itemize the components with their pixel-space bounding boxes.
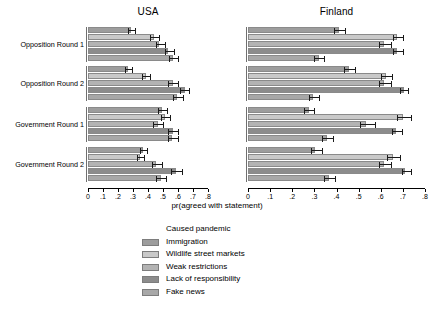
error-bar-cap-low <box>168 129 169 135</box>
bar-finland-g2-s3 <box>248 128 396 134</box>
error-bar <box>153 124 163 125</box>
x-tick-label: .2 <box>282 193 302 200</box>
bar-finland-g2-s1 <box>248 114 403 120</box>
x-axis-label: pr(agreed with statement) <box>0 201 434 210</box>
error-bar-cap-low <box>397 115 398 121</box>
error-bar-cap-low <box>168 81 169 87</box>
error-bar-cap-low <box>128 28 129 34</box>
error-bar <box>142 76 150 77</box>
error-bar-cap-low <box>381 74 382 80</box>
error-bar <box>161 117 170 118</box>
bar-finland-g1-s0 <box>248 66 349 72</box>
x-tick-label: .8 <box>415 193 434 200</box>
error-bar-cap-low <box>379 42 380 48</box>
group-separator <box>246 27 247 62</box>
error-bar <box>379 164 391 165</box>
error-bar <box>360 124 375 125</box>
error-bar-cap-low <box>379 162 380 168</box>
legend-label-0: Immigration <box>166 237 208 246</box>
error-bar <box>128 30 136 31</box>
bar-usa-g1-s4 <box>88 94 177 100</box>
legend-swatch-1 <box>142 251 159 258</box>
error-bar <box>400 90 409 91</box>
error-bar-cap-high <box>403 49 404 55</box>
bar-usa-g1-s1 <box>88 73 146 79</box>
error-bar <box>311 150 322 151</box>
x-tick <box>193 189 194 192</box>
group-separator <box>86 27 87 62</box>
error-bar-cap-low <box>161 115 162 121</box>
error-bar-cap-low <box>334 28 335 34</box>
error-bar <box>125 69 132 70</box>
error-bar <box>168 83 178 84</box>
category-label-0: Opposition Round 1 <box>2 40 84 49</box>
bar-finland-g0-s3 <box>248 48 397 54</box>
error-bar-cap-low <box>156 176 157 182</box>
category-label-3: Government Round 2 <box>2 160 84 169</box>
x-tick-label: .4 <box>327 193 347 200</box>
error-bar-cap-low <box>322 136 323 142</box>
error-bar-cap-high <box>132 67 133 73</box>
error-bar-cap-high <box>335 176 336 182</box>
bar-usa-g2-s2 <box>88 121 158 127</box>
x-tick <box>381 189 382 192</box>
bar-usa-g3-s2 <box>88 161 156 167</box>
x-tick <box>163 189 164 192</box>
bar-finland-g3-s0 <box>248 147 315 153</box>
x-tick <box>208 189 209 192</box>
error-bar <box>309 97 319 98</box>
error-bar-cap-high <box>147 148 148 154</box>
error-bar-cap-high <box>375 122 376 128</box>
error-bar-cap-high <box>392 74 393 80</box>
error-bar-cap-high <box>403 35 404 41</box>
x-tick <box>359 189 360 192</box>
error-bar-cap-high <box>135 28 136 34</box>
error-bar-cap-low <box>153 122 154 128</box>
x-tick-label: .8 <box>198 193 218 200</box>
x-tick <box>88 189 89 192</box>
error-bar-cap-high <box>400 155 401 161</box>
bar-finland-g0-s0 <box>248 27 339 33</box>
error-bar <box>158 110 167 111</box>
error-bar <box>324 178 335 179</box>
x-tick <box>178 189 179 192</box>
error-bar-cap-low <box>402 169 403 175</box>
panel-title-finland: Finland <box>248 6 425 17</box>
error-bar-cap-high <box>178 136 179 142</box>
error-bar <box>137 157 145 158</box>
error-bar-cap-high <box>163 122 164 128</box>
group-separator <box>246 66 247 101</box>
error-bar-cap-high <box>319 95 320 101</box>
x-tick <box>148 189 149 192</box>
group-separator <box>86 147 87 182</box>
error-bar <box>393 37 403 38</box>
legend-label-2: Weak restrictions <box>166 262 227 271</box>
bar-finland-g0-s2 <box>248 41 384 47</box>
legend-title: Caused pandemic <box>166 224 230 233</box>
error-bar-cap-high <box>402 129 403 135</box>
error-bar-cap-high <box>391 81 392 87</box>
error-bar-cap-high <box>322 148 323 154</box>
error-bar-cap-high <box>391 42 392 48</box>
x-tick <box>403 189 404 192</box>
error-bar-cap-high <box>178 81 179 87</box>
error-bar-cap-high <box>167 108 168 114</box>
error-bar <box>168 138 179 139</box>
bar-finland-g0-s1 <box>248 34 397 40</box>
error-bar-cap-low <box>393 35 394 41</box>
error-bar-cap-high <box>182 169 183 175</box>
group-separator <box>86 107 87 142</box>
x-tick <box>133 189 134 192</box>
error-bar <box>392 131 402 132</box>
error-bar <box>304 110 314 111</box>
error-bar <box>344 69 355 70</box>
x-tick <box>292 189 293 192</box>
error-bar-cap-low <box>360 122 361 128</box>
bar-usa-g0-s0 <box>88 27 131 33</box>
error-bar <box>381 76 392 77</box>
group-separator <box>246 147 247 182</box>
bar-usa-g1-s2 <box>88 80 173 86</box>
error-bar <box>140 150 148 151</box>
bar-usa-g1-s0 <box>88 66 128 72</box>
error-bar-cap-low <box>400 88 401 94</box>
